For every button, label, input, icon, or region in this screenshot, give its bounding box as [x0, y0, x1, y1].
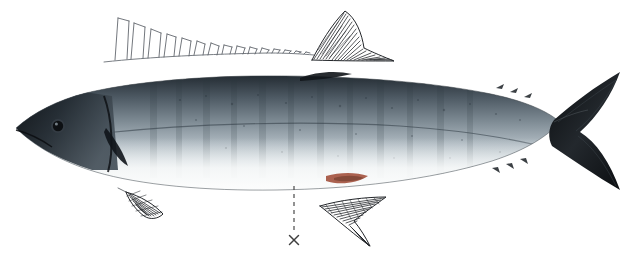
pelvic-fin-drawing — [118, 188, 163, 218]
fish-plate-figure: × mackerel — [0, 0, 631, 264]
second-dorsal-fin-drawing — [312, 11, 394, 61]
x-mark — [290, 236, 299, 245]
anal-fin-drawing — [320, 197, 386, 246]
first-dorsal-fin-drawing — [104, 18, 314, 62]
fin-drawings-layer — [0, 0, 631, 264]
